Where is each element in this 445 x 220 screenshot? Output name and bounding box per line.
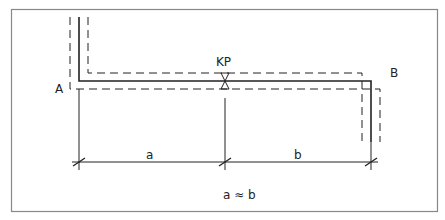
label-dim-b: b <box>294 148 302 162</box>
pipe-diagram: A B KP a b a ≈ b <box>0 0 445 220</box>
label-dim-a: a <box>146 148 153 162</box>
label-relation: a ≈ b <box>223 188 256 202</box>
label-point-a: A <box>55 82 64 96</box>
label-valve-kp: KP <box>216 55 231 69</box>
label-point-b: B <box>390 66 398 80</box>
